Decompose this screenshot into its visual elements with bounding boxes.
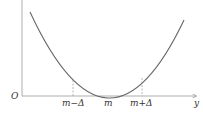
parabola-diagram: O m−Δ m m+Δ y <box>0 0 203 118</box>
origin-label: O <box>11 91 19 101</box>
tick-label-m: m <box>104 98 113 108</box>
x-axis-label: y <box>193 98 200 108</box>
tick-label-m-minus-delta: m−Δ <box>62 98 85 108</box>
tick-label-m-plus-delta: m+Δ <box>130 98 153 108</box>
parabola-curve <box>30 12 184 98</box>
